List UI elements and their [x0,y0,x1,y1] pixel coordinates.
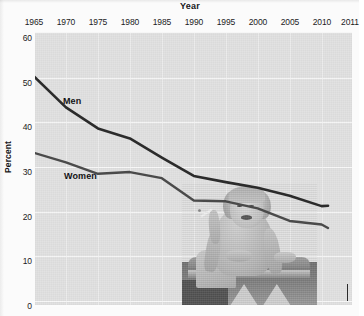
y-tick-label-60: 60 [12,33,32,43]
series-lines [34,32,352,306]
x-tick-label-2011: 2011 [335,17,364,27]
x-tick-label-1990: 1990 [179,17,209,27]
x-tick-label-1975: 1975 [83,17,113,27]
y-tick-label-40: 40 [12,122,32,132]
x-tick-label-1980: 1980 [115,17,145,27]
y-tick-label-10: 10 [12,256,32,266]
x-tick-label-1970: 1970 [51,17,81,27]
x-tick-label-2000: 2000 [243,17,273,27]
y-tick-label-0: 0 [12,301,32,311]
x-axis-line [33,305,353,307]
y-tick-label-30: 30 [12,167,32,177]
right-edge-tick [347,284,348,301]
x-tick-label-2005: 2005 [275,17,305,27]
x-tick-label-1985: 1985 [147,17,177,27]
x-axis-title: Year [150,1,230,11]
x-tick-label-2010: 2010 [307,17,337,27]
y-tick-label-20: 20 [12,212,32,222]
series-label-women: Women [64,171,97,181]
series-line-women [34,153,328,228]
y-axis-line [33,30,35,308]
x-tick-label-1995: 1995 [211,17,241,27]
y-tick-label-50: 50 [12,78,32,88]
series-label-men: Men [63,96,81,106]
x-tick-label-1965: 1965 [19,17,49,27]
